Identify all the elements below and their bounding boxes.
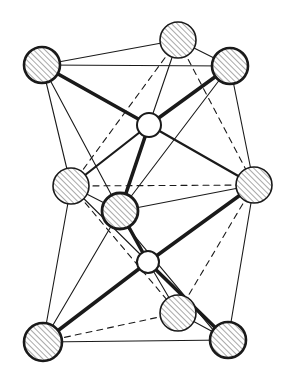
large-atom-tb <box>160 22 196 58</box>
large-atom-ml <box>53 168 89 204</box>
large-atom-bl <box>24 323 62 361</box>
crystal-structure-diagram <box>0 0 290 373</box>
large-atom-br <box>210 322 246 358</box>
large-atom-tl <box>24 47 60 83</box>
bond-mr-bb <box>178 185 254 313</box>
small-atom-s2 <box>137 251 159 273</box>
bond-tr-mf <box>120 66 230 211</box>
bond-ml-mr <box>71 185 254 186</box>
bond-mr-s2 <box>148 185 254 262</box>
bond-tl-tb <box>42 40 178 65</box>
small-atom-s1 <box>137 113 161 137</box>
large-atom-tr <box>212 48 248 84</box>
large-atom-bb <box>160 295 196 331</box>
bond-mr-br <box>228 185 254 340</box>
large-atom-mr <box>236 167 272 203</box>
bond-tl-tr <box>42 65 230 66</box>
bond-bl-br <box>43 340 228 342</box>
large-atom-mf <box>102 193 138 229</box>
